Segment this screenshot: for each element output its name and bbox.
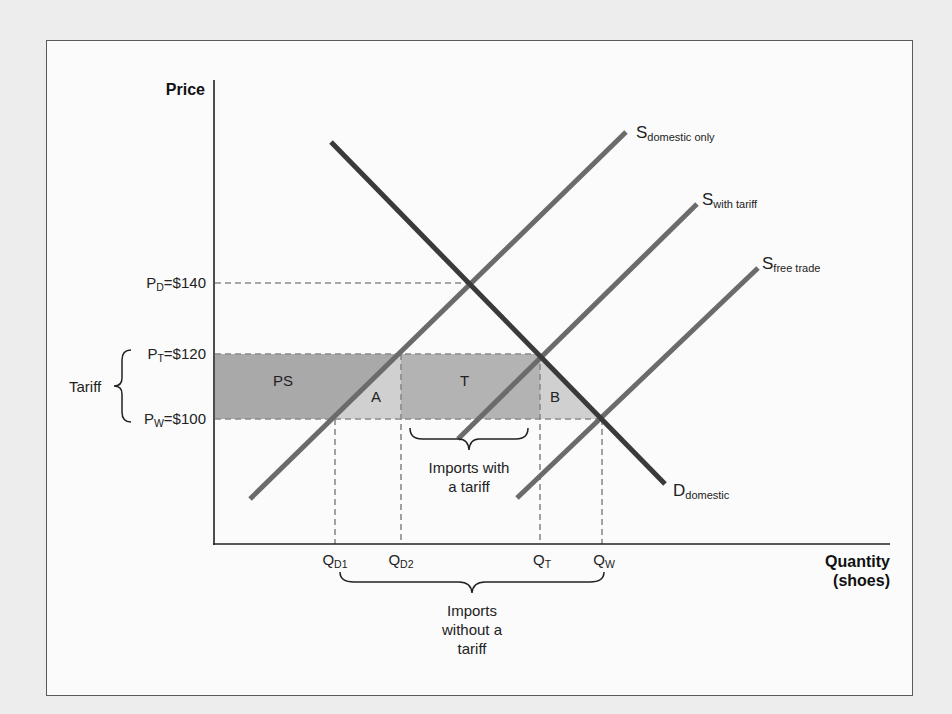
region-label-t: T	[460, 373, 469, 388]
imports-with-tariff-label: Imports with a tariff	[404, 458, 534, 496]
curve-label-s-domestic-only: Sdomestic only	[636, 124, 715, 143]
curve-label-s-free-trade: Sfree trade	[762, 255, 820, 274]
imports-without-tariff-label: Imports without a tariff	[407, 601, 537, 658]
x-axis-label-quantity: Quantity	[825, 553, 890, 570]
tariff-bracket-label: Tariff	[69, 379, 101, 394]
imports-without-tariff-brace-icon	[340, 572, 604, 593]
region-label-a: A	[371, 389, 381, 404]
quantity-label-qd2: QD2	[378, 552, 424, 570]
quantity-label-qw: QW	[586, 552, 622, 570]
curve-label-d-domestic: Ddomestic	[673, 482, 729, 501]
axes	[213, 80, 890, 545]
curve-label-s-with-tariff: Swith tariff	[702, 191, 757, 210]
price-label-pw: PW=$100	[100, 411, 206, 429]
y-axis-label: Price	[140, 82, 205, 98]
quantity-label-qd1: QD1	[312, 552, 358, 570]
region-t	[401, 354, 540, 419]
price-label-pt: PT=$120	[100, 346, 206, 364]
quantity-label-qt: QT	[524, 552, 560, 570]
supply-domestic-only-line	[250, 132, 626, 499]
x-axis-label-unit: (shoes)	[833, 572, 890, 589]
x-axis-label: Quantity (shoes)	[760, 552, 890, 590]
region-label-ps: PS	[273, 373, 293, 388]
demand-domestic-line	[331, 142, 665, 484]
region-label-b: B	[550, 389, 560, 404]
price-label-pd: PD=$140	[100, 275, 206, 293]
supply-curves	[250, 132, 758, 499]
